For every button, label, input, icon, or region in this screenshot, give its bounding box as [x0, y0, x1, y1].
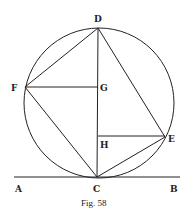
label-a: A: [14, 184, 23, 194]
diameter-dc: [97, 28, 98, 177]
label-e: E: [168, 134, 175, 144]
chord-df: [25, 28, 98, 87]
label-b: B: [170, 184, 178, 194]
label-h: H: [100, 140, 109, 150]
label-g: G: [100, 83, 108, 93]
circle: [24, 28, 174, 178]
figure-caption: Fig. 58: [81, 198, 107, 208]
chord-de: [98, 28, 165, 137]
label-f: F: [11, 83, 18, 93]
label-c: C: [93, 184, 100, 194]
label-d: D: [94, 14, 102, 24]
geometry-figure: D F G H E A C B Fig. 58: [0, 0, 188, 219]
chord-fc: [25, 87, 97, 177]
